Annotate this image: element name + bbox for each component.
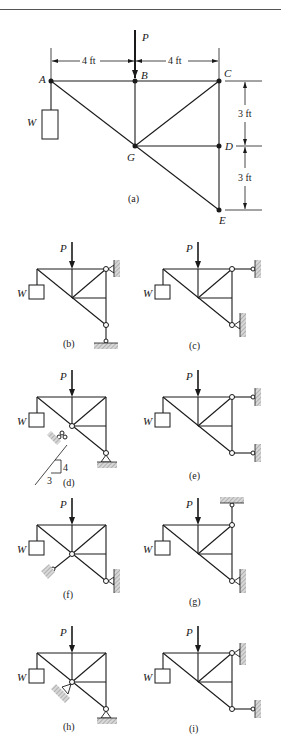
weight-label: W (17, 543, 27, 555)
load-label: P (185, 370, 193, 382)
weight-label: W (143, 287, 153, 299)
joint-label-g: G (127, 151, 135, 163)
caption-i: (i) (189, 723, 198, 735)
variant-i: P W (i) (143, 626, 261, 735)
joint-c (217, 79, 222, 84)
joint-label-a: A (38, 73, 46, 85)
variant-c: P W (c) (143, 242, 261, 352)
slope-rise: 4 (63, 462, 68, 473)
caption-h: (h) (63, 721, 75, 733)
caption-f: (f) (63, 589, 73, 601)
load-label: P (59, 498, 67, 510)
load-label: P (185, 626, 193, 638)
variant-f: P W (f) (17, 498, 120, 601)
dim-label-cd: 3 ft (238, 108, 252, 119)
weight-label: W (17, 671, 27, 683)
variant-e: P W (e) (143, 370, 261, 482)
joint-d (217, 144, 222, 149)
weight-label: W (17, 287, 27, 299)
dim-label-de: 3 ft (238, 172, 252, 183)
weight-block (42, 110, 58, 139)
dim-label-bc: 4 ft (168, 55, 182, 66)
weight-label: W (27, 116, 37, 128)
caption-a: (a) (128, 193, 139, 205)
joint-label-e: E (218, 214, 226, 226)
caption-b: (b) (63, 338, 75, 350)
joint-b (133, 79, 138, 84)
slope-run: 3 (47, 475, 52, 486)
variant-d: P W 4 3 (d) (17, 370, 117, 489)
variant-g: P W (g) (143, 497, 246, 608)
joint-e (217, 208, 222, 213)
dim-label-ab: 4 ft (82, 55, 96, 66)
truss-figure: P 4 ft 4 ft W A B C D (0, 0, 281, 743)
weight-label: W (143, 671, 153, 683)
joint-g (133, 144, 138, 149)
joint-label-d: D (224, 140, 233, 152)
joint-a (49, 79, 54, 84)
weight-label: W (143, 543, 153, 555)
caption-c: (c) (189, 340, 200, 352)
main-truss: P 4 ft 4 ft W A B C D (27, 30, 262, 226)
load-label: P (185, 498, 193, 510)
caption-d: (d) (63, 477, 75, 489)
caption-e: (e) (189, 470, 200, 482)
weight-label: W (143, 415, 153, 427)
variant-h: P W (h) (17, 626, 117, 733)
load-label: P (59, 626, 67, 638)
caption-g: (g) (189, 596, 201, 608)
weight-label: W (17, 415, 27, 427)
joint-label-b: B (141, 69, 148, 81)
load-label: P (59, 370, 67, 382)
joint-label-c: C (224, 67, 232, 79)
variant-b: P W (b) (17, 242, 120, 350)
load-label: P (141, 31, 149, 43)
load-label: P (59, 242, 67, 254)
load-label: P (185, 242, 193, 254)
